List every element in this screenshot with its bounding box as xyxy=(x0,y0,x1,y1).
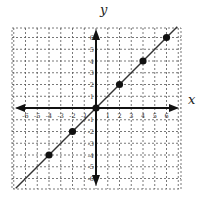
y-tick-label: -4 xyxy=(88,152,94,160)
x-tick-label: -4 xyxy=(46,112,52,120)
y-tick-label: 5 xyxy=(90,46,94,54)
x-axis-left-arrow-icon xyxy=(15,104,25,112)
y-tick-label: -3 xyxy=(88,140,94,148)
x-tick-label: 6 xyxy=(164,112,168,120)
y-tick-label: 6 xyxy=(90,34,94,42)
y-tick-label: 3 xyxy=(90,69,94,77)
x-tick-label: 3 xyxy=(129,112,133,120)
x-tick-label: -5 xyxy=(34,112,40,120)
x-tick-label: -6 xyxy=(22,112,28,120)
x-tick-label: 4 xyxy=(141,112,145,120)
data-point xyxy=(69,128,76,135)
x-tick-label: 2 xyxy=(117,112,121,120)
y-tick-label: 1 xyxy=(90,93,94,101)
x-axis-right-arrow-icon xyxy=(169,104,179,112)
x-axis-label: x xyxy=(188,92,195,107)
y-tick-label: -1 xyxy=(88,116,94,124)
x-tick-label: 5 xyxy=(153,112,157,120)
data-point xyxy=(45,151,52,158)
x-tick-label: 1 xyxy=(106,112,110,120)
data-point xyxy=(139,57,146,64)
x-tick-label: -2 xyxy=(69,112,75,120)
y-tick-label: 2 xyxy=(90,81,94,89)
coordinate-plane: -6-5-4-3-2-1123456-6-5-4-3-2-1123456 xyxy=(0,0,204,213)
data-point xyxy=(116,81,123,88)
data-point xyxy=(92,104,99,111)
x-tick-label: -3 xyxy=(58,112,64,120)
data-point xyxy=(163,34,170,41)
y-axis-label: y xyxy=(100,2,107,17)
y-tick-label: -2 xyxy=(88,128,94,136)
y-tick-label: 4 xyxy=(90,58,94,66)
y-tick-label: -5 xyxy=(88,163,94,171)
y-tick-label: -6 xyxy=(88,175,94,183)
